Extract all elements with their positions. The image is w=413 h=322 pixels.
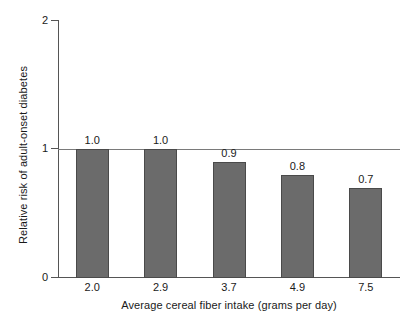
x-axis-title: Average cereal fiber intake (grams per d…: [58, 299, 400, 311]
y-tick-label-0-wrap: 0: [16, 272, 48, 283]
x-tick-label: 2.0: [72, 282, 112, 293]
bar-value-label: 1.0: [72, 135, 112, 146]
y-tick-label-0: 0: [18, 272, 48, 283]
y-tick-label-1: 1: [18, 143, 48, 154]
bar-chart-figure: Relative risk of adult-onset diabetes 2 …: [0, 0, 413, 322]
bar-value-label: 1.0: [141, 135, 181, 146]
y-tick-label-2-wrap: 2: [16, 15, 48, 26]
bar-series-item: [349, 188, 382, 278]
bar-series-item: [144, 149, 177, 278]
x-tick-label: 4.9: [277, 282, 317, 293]
y-tick-label-2: 2: [18, 15, 48, 26]
x-tick-label: 7.5: [346, 282, 386, 293]
y-tick-label-1-wrap: 1: [16, 143, 48, 154]
bar-series-item: [281, 175, 314, 278]
bar-series-item: [76, 149, 109, 278]
bar-value-label: 0.7: [346, 174, 386, 185]
bar-value-label: 0.9: [209, 148, 249, 159]
x-tick-label: 3.7: [209, 282, 249, 293]
x-tick-label: 2.9: [141, 282, 181, 293]
y-axis-title: Relative risk of adult-onset diabetes: [14, 10, 32, 300]
bar-series-item: [213, 162, 246, 278]
bar-value-label: 0.8: [277, 161, 317, 172]
